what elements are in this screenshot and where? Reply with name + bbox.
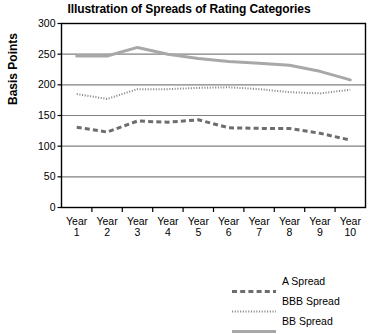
series-line-bb-spread (77, 47, 351, 80)
x-tick-label: Year1 (60, 216, 94, 239)
series-line-a-spread (77, 120, 351, 140)
x-tick-label-line: 4 (151, 227, 185, 239)
x-tick-label-line: 1 (60, 227, 94, 239)
x-tick-label-line: 6 (212, 227, 246, 239)
x-tick-label-line: 9 (303, 227, 337, 239)
x-tick-label: Year9 (303, 216, 337, 239)
legend-item-a-spread[interactable]: A Spread (232, 274, 378, 294)
y-tick-label: 200 (22, 79, 56, 89)
y-tick-label: 0 (22, 202, 56, 212)
legend-swatch-bb-spread (232, 320, 276, 325)
legend-label-bbb-spread: BBB Spread (282, 295, 340, 307)
x-tick-label-line: 5 (181, 227, 215, 239)
x-tick-label: Year3 (121, 216, 155, 239)
x-tick-label-line: 2 (90, 227, 124, 239)
x-tick-label: Year5 (181, 216, 215, 239)
series-line-bbb-spread (77, 87, 351, 99)
legend-label-a-spread: A Spread (282, 275, 325, 287)
x-tick-label-line: 7 (242, 227, 276, 239)
y-tick-label: 250 (22, 49, 56, 59)
x-tick-label: Year4 (151, 216, 185, 239)
x-tick-label: Year8 (273, 216, 307, 239)
y-tick-label: 300 (22, 18, 56, 28)
x-tick-label-line: 8 (273, 227, 307, 239)
chart-container: Illustration of Spreads of Rating Catego… (0, 0, 378, 334)
legend-swatch-bbb-spread (232, 300, 276, 305)
legend-item-bbb-spread[interactable]: BBB Spread (232, 294, 378, 314)
y-tick-label: 150 (22, 110, 56, 120)
y-tick-label: 100 (22, 141, 56, 151)
x-tick-label-line: 10 (333, 227, 367, 239)
x-tick-label-line: 3 (121, 227, 155, 239)
data-series-group (77, 47, 351, 140)
x-tick-label: Year2 (90, 216, 124, 239)
x-tick-label: Year6 (212, 216, 246, 239)
x-tick-label: Year7 (242, 216, 276, 239)
y-tick-label: 50 (22, 171, 56, 181)
legend-swatch-a-spread (232, 280, 276, 285)
legend-label-bb-spread: BB Spread (282, 315, 333, 327)
legend-item-bb-spread[interactable]: BB Spread (232, 314, 378, 334)
legend: A Spread BBB Spread BB Spread (232, 274, 378, 334)
x-tick-label: Year10 (333, 216, 367, 239)
